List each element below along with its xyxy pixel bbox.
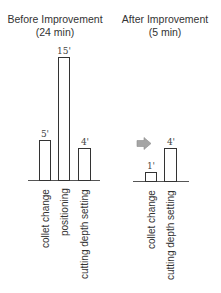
after-value-label-collet: 1' xyxy=(141,161,161,171)
after-category-cutting-depth-setting: cutting depth setting xyxy=(165,190,176,280)
right-arrow-icon xyxy=(136,137,152,150)
before-value-label-positioning: 15' xyxy=(54,46,74,56)
after-value-label-cutting: 4' xyxy=(161,137,181,147)
before-subtitle-text: (24 min) xyxy=(0,26,110,39)
before-bar-cutting-depth-setting xyxy=(78,148,91,181)
before-value-label-collet: 5' xyxy=(35,129,55,139)
after-title: After Improvement (5 min) xyxy=(115,13,215,39)
after-baseline xyxy=(133,181,189,182)
after-bar-collet-change xyxy=(145,172,157,182)
before-category-collet-change: collet change xyxy=(40,189,51,248)
after-title-text: After Improvement xyxy=(115,13,215,26)
before-title: Before Improvement (24 min) xyxy=(0,13,110,39)
before-bar-positioning xyxy=(58,57,70,181)
after-bar-cutting-depth-setting xyxy=(164,148,177,182)
before-category-positioning: positioning xyxy=(59,188,70,236)
before-value-label-cutting: 4' xyxy=(75,137,95,147)
before-category-cutting-depth-setting: cutting depth setting xyxy=(79,189,90,279)
before-title-text: Before Improvement xyxy=(0,13,110,26)
before-bar-collet-change xyxy=(39,140,51,181)
after-subtitle-text: (5 min) xyxy=(115,26,215,39)
after-category-collet-change: collet change xyxy=(146,190,157,249)
